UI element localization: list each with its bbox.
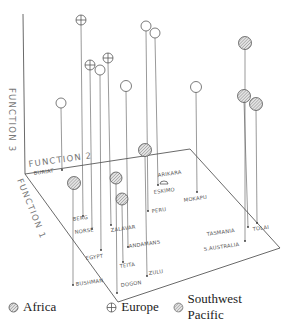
label-norse: NORSE [74,226,94,235]
label-tolai: TOLAI [251,224,269,232]
point-norse [85,60,95,70]
label-zulu: ZULU [148,268,163,276]
label-tasmania: TASMANIA [205,227,235,237]
point-eskimo [150,28,160,38]
legend-item-europe: Europe [106,299,159,315]
point-tasmania [238,90,251,103]
z-axis [23,14,25,174]
label-saustralia: S.AUSTRALIA [203,241,240,252]
axis-label-function1: FUNCTION 1 [15,177,48,240]
label-berg: BERG [72,214,88,222]
legend-label-europe: Europe [121,299,159,315]
label-teita: TEITA [118,261,135,269]
label-bushman: BUSHMAN [75,277,103,287]
point-andamans [121,81,132,92]
point-zulu [139,144,152,157]
legend-item-africa: Africa [8,299,56,315]
label-zalavar: ZALAVAR [110,224,136,233]
point-saustralia [239,37,252,50]
point-zalavar [103,53,113,63]
label-mokapu: MOKAPU [183,194,207,203]
hatched-circle-icon [8,302,19,313]
point-bushman [68,177,81,190]
point-arikara [160,181,168,184]
label-dogon: DOGON [120,279,142,288]
point-peru [141,21,151,31]
label-arikara: ARIKARA [157,169,182,178]
point-berg [76,15,86,25]
legend-label-swpacific: Southwest Pacific [188,291,280,319]
label-eskimo: ESKIMO [153,186,175,195]
point-teita [116,193,128,205]
hatched-circle-gray-icon [173,302,184,313]
point-egypt [95,65,105,75]
label-egypt: EGYPT [85,253,104,261]
legend-item-swpacific: Southwest Pacific [173,291,280,319]
legend-label-africa: Africa [23,299,56,315]
base-plane [25,149,280,302]
point-tolai [250,98,263,111]
label-peru: PERU [151,206,166,214]
label-andamans: ANDAMANS [128,239,160,249]
point-dogon [110,172,122,184]
axis-label-function2: FUNCTION 2 [28,150,93,169]
axis-label-function3: FUNCTION 3 [7,88,17,152]
point-mokapu [191,82,202,93]
legend: Africa Europe Southwest Pacific [8,298,294,316]
point-buriat [56,98,66,108]
label-buriat: BURIAT [33,167,54,176]
crossed-circle-icon [106,302,117,313]
scatter-3d-plot: FUNCTION 3 FUNCTION 2 FUNCTION 1 [0,0,294,319]
